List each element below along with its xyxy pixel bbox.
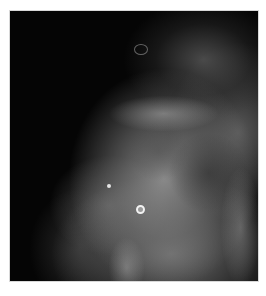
ring-calcification <box>136 205 145 214</box>
punctate-calcification <box>107 184 111 188</box>
upper-ring-structure <box>134 44 148 55</box>
